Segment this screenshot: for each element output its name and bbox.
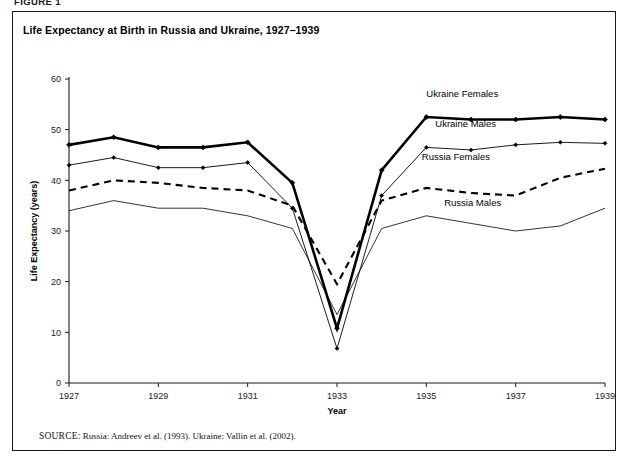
chart-plot-area: 0102030405060192719291931193319351937193… — [13, 12, 617, 452]
x-axis-tick-label: 1939 — [595, 391, 615, 401]
x-axis-tick-label: 1931 — [238, 391, 258, 401]
series-russia-males — [69, 201, 605, 315]
series-marker — [514, 143, 518, 147]
series-label-ukraine-females: Ukraine Females — [426, 88, 498, 99]
series-label-russia-males: Russia Males — [444, 197, 501, 208]
y-axis-tick-label: 30 — [51, 226, 61, 236]
series-marker — [67, 142, 72, 147]
series-marker — [156, 166, 160, 170]
y-axis-tick-label: 10 — [51, 328, 61, 338]
series-marker — [335, 347, 339, 351]
series-marker — [67, 163, 71, 167]
y-axis-tick-label: 50 — [51, 125, 61, 135]
series-marker — [558, 140, 562, 144]
series-line-3 — [69, 201, 605, 315]
series-marker — [603, 117, 608, 122]
y-axis-tick-label: 60 — [51, 74, 61, 84]
y-axis-tick-label: 40 — [51, 176, 61, 186]
series-marker — [112, 156, 116, 160]
figure-number-label: FIGURE 1 — [14, 0, 61, 7]
series-ukraine-females — [67, 115, 608, 331]
series-marker — [201, 166, 205, 170]
series-line-1 — [69, 142, 605, 348]
series-marker — [558, 115, 563, 120]
source-keyword: SOURCE: — [39, 431, 81, 441]
x-axis-tick-label: 1927 — [59, 391, 79, 401]
figure-container: Life Expectancy at Birth in Russia and U… — [12, 11, 616, 451]
y-axis-title: Life Expectancy (years) — [29, 181, 39, 282]
series-marker — [156, 145, 161, 150]
series-label-russia-females: Russia Females — [422, 151, 490, 162]
source-text: Russia: Andreev et al. (1993). Ukraine: … — [83, 431, 296, 441]
series-marker — [201, 145, 206, 150]
y-axis-tick-label: 20 — [51, 277, 61, 287]
x-axis-tick-label: 1933 — [327, 391, 347, 401]
series-marker — [513, 117, 518, 122]
x-axis-tick-label: 1937 — [506, 391, 526, 401]
series-marker — [111, 135, 116, 140]
x-axis-title: Year — [327, 406, 347, 416]
source-note: SOURCE: Russia: Andreev et al. (1993). U… — [39, 431, 296, 441]
line-chart: 0102030405060192719291931193319351937193… — [13, 12, 617, 452]
series-label-ukraine-males: Ukraine Males — [435, 118, 496, 129]
x-axis-tick-label: 1929 — [148, 391, 168, 401]
series-line-0 — [69, 117, 605, 328]
series-ukraine-males — [67, 140, 607, 350]
x-axis-tick-label: 1935 — [416, 391, 436, 401]
series-russia-females — [69, 169, 605, 285]
series-line-2 — [69, 169, 605, 285]
y-axis-tick-label: 0 — [56, 378, 61, 388]
series-marker — [603, 141, 607, 145]
